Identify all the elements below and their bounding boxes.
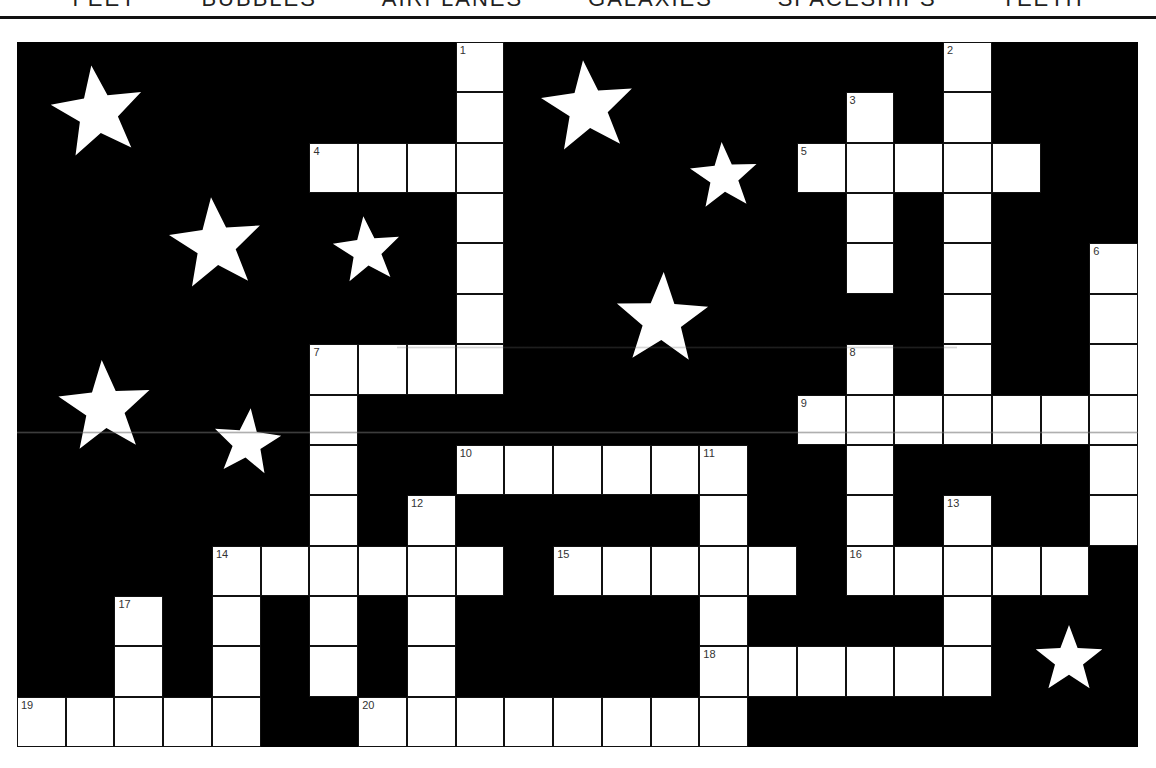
crossword-cell[interactable]: [407, 344, 456, 394]
crossword-cell[interactable]: [553, 697, 602, 747]
crossword-cell[interactable]: [309, 596, 358, 646]
letter-input[interactable]: [457, 698, 504, 746]
crossword-cell[interactable]: 7: [309, 344, 358, 394]
crossword-cell[interactable]: 19: [17, 697, 66, 747]
crossword-cell[interactable]: [992, 143, 1041, 193]
letter-input[interactable]: [798, 396, 845, 444]
crossword-cell[interactable]: [846, 143, 895, 193]
letter-input[interactable]: [700, 496, 747, 544]
crossword-cell[interactable]: [894, 395, 943, 445]
crossword-cell[interactable]: 4: [309, 143, 358, 193]
letter-input[interactable]: [18, 698, 65, 746]
letter-input[interactable]: [310, 446, 357, 494]
crossword-cell[interactable]: [358, 143, 407, 193]
crossword-cell[interactable]: [846, 445, 895, 495]
crossword-cell[interactable]: 2: [943, 42, 992, 92]
crossword-cell[interactable]: 20: [358, 697, 407, 747]
letter-input[interactable]: [554, 446, 601, 494]
crossword-cell[interactable]: [504, 697, 553, 747]
letter-input[interactable]: [164, 698, 211, 746]
letter-input[interactable]: [505, 698, 552, 746]
crossword-cell[interactable]: 12: [407, 495, 456, 545]
letter-input[interactable]: [457, 547, 504, 595]
crossword-cell[interactable]: [846, 646, 895, 696]
letter-input[interactable]: [310, 647, 357, 695]
crossword-cell[interactable]: [1089, 344, 1138, 394]
letter-input[interactable]: [603, 698, 650, 746]
letter-input[interactable]: [895, 547, 942, 595]
crossword-cell[interactable]: [992, 546, 1041, 596]
letter-input[interactable]: [798, 144, 845, 192]
letter-input[interactable]: [993, 144, 1040, 192]
letter-input[interactable]: [944, 345, 991, 393]
crossword-cell[interactable]: [943, 646, 992, 696]
letter-input[interactable]: [847, 93, 894, 141]
letter-input[interactable]: [554, 698, 601, 746]
crossword-cell[interactable]: [894, 143, 943, 193]
crossword-cell[interactable]: [846, 243, 895, 293]
crossword-cell[interactable]: 8: [846, 344, 895, 394]
crossword-cell[interactable]: 15: [553, 546, 602, 596]
crossword-cell[interactable]: 17: [114, 596, 163, 646]
crossword-cell[interactable]: [748, 646, 797, 696]
letter-input[interactable]: [847, 547, 894, 595]
crossword-cell[interactable]: [407, 546, 456, 596]
letter-input[interactable]: [408, 144, 455, 192]
letter-input[interactable]: [115, 647, 162, 695]
crossword-cell[interactable]: [114, 697, 163, 747]
letter-input[interactable]: [652, 446, 699, 494]
crossword-cell[interactable]: [309, 395, 358, 445]
crossword-cell[interactable]: [1041, 395, 1090, 445]
crossword-cell[interactable]: [943, 143, 992, 193]
letter-input[interactable]: [847, 446, 894, 494]
crossword-cell[interactable]: [748, 546, 797, 596]
crossword-cell[interactable]: [943, 395, 992, 445]
crossword-cell[interactable]: [261, 546, 310, 596]
crossword-cell[interactable]: [846, 495, 895, 545]
crossword-cell[interactable]: [456, 243, 505, 293]
crossword-cell[interactable]: 6: [1089, 243, 1138, 293]
crossword-cell[interactable]: [212, 646, 261, 696]
crossword-cell[interactable]: 16: [846, 546, 895, 596]
crossword-cell[interactable]: [309, 445, 358, 495]
crossword-cell[interactable]: 13: [943, 495, 992, 545]
crossword-cell[interactable]: [212, 697, 261, 747]
crossword-cell[interactable]: 3: [846, 92, 895, 142]
crossword-cell[interactable]: [456, 193, 505, 243]
crossword-cell[interactable]: [456, 697, 505, 747]
crossword-cell[interactable]: [943, 193, 992, 243]
crossword-cell[interactable]: [1089, 395, 1138, 445]
letter-input[interactable]: [115, 698, 162, 746]
crossword-cell[interactable]: [943, 294, 992, 344]
crossword-cell[interactable]: [309, 646, 358, 696]
letter-input[interactable]: [895, 396, 942, 444]
letter-input[interactable]: [944, 144, 991, 192]
crossword-cell[interactable]: [407, 646, 456, 696]
letter-input[interactable]: [847, 244, 894, 292]
letter-input[interactable]: [847, 194, 894, 242]
letter-input[interactable]: [603, 446, 650, 494]
letter-input[interactable]: [700, 698, 747, 746]
crossword-cell[interactable]: [456, 92, 505, 142]
letter-input[interactable]: [1090, 496, 1137, 544]
letter-input[interactable]: [505, 446, 552, 494]
letter-input[interactable]: [1090, 244, 1137, 292]
letter-input[interactable]: [408, 496, 455, 544]
crossword-cell[interactable]: [1089, 294, 1138, 344]
letter-input[interactable]: [749, 547, 796, 595]
letter-input[interactable]: [457, 244, 504, 292]
letter-input[interactable]: [115, 597, 162, 645]
letter-input[interactable]: [993, 547, 1040, 595]
letter-input[interactable]: [457, 144, 504, 192]
letter-input[interactable]: [700, 647, 747, 695]
crossword-cell[interactable]: [504, 445, 553, 495]
crossword-cell[interactable]: [553, 445, 602, 495]
crossword-cell[interactable]: [602, 445, 651, 495]
crossword-cell[interactable]: [894, 646, 943, 696]
crossword-cell[interactable]: [1089, 495, 1138, 545]
crossword-cell[interactable]: [456, 546, 505, 596]
letter-input[interactable]: [847, 396, 894, 444]
letter-input[interactable]: [310, 496, 357, 544]
letter-input[interactable]: [457, 194, 504, 242]
letter-input[interactable]: [310, 345, 357, 393]
